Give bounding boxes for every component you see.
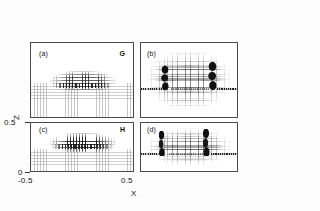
z-tick-upper-mark <box>25 122 30 123</box>
panel-c-vector-field <box>50 133 116 152</box>
panel-c-corner-label: H <box>120 126 125 133</box>
panel-b-dark-feature-left <box>161 65 169 91</box>
z-axis-title: Z <box>12 115 21 120</box>
panel-b-baseline-right <box>217 88 238 90</box>
panel-c-vector-core <box>52 144 112 149</box>
panel-d: (d) <box>140 122 238 172</box>
x-tick-label-right: 0.5 <box>121 176 133 185</box>
panel-d-baseline-right <box>211 153 238 155</box>
x-tick-label-left: -0.5 <box>18 176 33 185</box>
panel-d-baseline-mid <box>169 153 205 155</box>
panel-d-dark-feature-left <box>158 131 165 156</box>
panel-a-vector-core <box>53 83 111 88</box>
panel-a-label: (a) <box>39 50 48 57</box>
figure-canvas: (a) G (b) (c) H (d) 0.5 0 Z -0. <box>0 0 320 211</box>
panel-d-label: (d) <box>147 126 156 133</box>
panel-a: (a) G <box>30 42 134 118</box>
x-axis-title: X <box>131 189 136 198</box>
z-tick-lower-mark <box>25 172 30 173</box>
panel-d-dark-feature-right <box>202 129 210 156</box>
panel-b: (b) <box>140 42 238 118</box>
panel-b-dark-feature-right <box>208 61 217 91</box>
panel-c-label: (c) <box>39 126 47 133</box>
panel-a-corner-label: G <box>120 50 125 57</box>
panel-c: (c) H <box>30 122 134 172</box>
panel-b-baseline-mid <box>171 88 209 90</box>
panel-c-substrate <box>31 149 133 171</box>
panel-b-label: (b) <box>147 50 156 57</box>
